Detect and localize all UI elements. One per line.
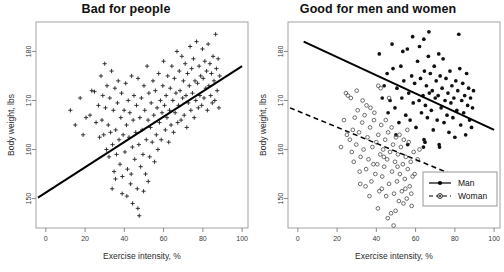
data-point <box>452 96 456 100</box>
data-point <box>362 148 366 152</box>
data-point <box>470 126 474 130</box>
data-point <box>398 172 402 176</box>
data-point <box>190 66 194 70</box>
data-point <box>119 116 123 120</box>
data-point <box>129 172 133 176</box>
data-point <box>195 81 199 85</box>
data-point <box>417 99 421 103</box>
data-point <box>451 116 455 120</box>
data-point <box>364 167 368 171</box>
data-point <box>380 175 384 179</box>
data-point <box>461 81 465 85</box>
data-point <box>386 216 390 220</box>
data-point <box>102 133 106 137</box>
data-point <box>369 106 373 110</box>
data-point <box>404 187 408 191</box>
data-point <box>422 145 426 149</box>
data-point <box>107 155 111 159</box>
x-tick-label: 0 <box>44 235 48 242</box>
data-point <box>413 81 417 85</box>
legend-label-woman: Woman <box>458 191 487 201</box>
data-point <box>73 123 77 127</box>
data-point <box>126 98 130 102</box>
data-point <box>393 160 397 164</box>
x-tick-label: 20 <box>333 235 341 242</box>
data-point <box>115 101 119 105</box>
data-point <box>146 118 150 122</box>
data-point <box>151 79 155 83</box>
data-point <box>395 180 399 184</box>
data-point <box>404 113 408 117</box>
y-tick-label: 160 <box>278 144 285 156</box>
legend[interactable]: ManWoman <box>423 172 497 206</box>
data-point <box>149 101 153 105</box>
data-point <box>384 194 388 198</box>
data-point <box>456 89 460 93</box>
data-point <box>143 108 147 112</box>
data-point <box>113 86 117 90</box>
data-point <box>450 84 454 88</box>
data-point <box>147 91 151 95</box>
data-point <box>352 160 356 164</box>
data-point <box>453 135 457 139</box>
data-point <box>430 89 434 93</box>
data-point <box>378 153 382 157</box>
data-point <box>194 40 198 44</box>
data-point <box>361 99 365 103</box>
data-point <box>181 79 185 83</box>
data-point <box>142 84 146 88</box>
x-tick-label: 80 <box>199 235 207 242</box>
x-tick-label: 0 <box>296 235 300 242</box>
data-point <box>110 187 114 191</box>
data-point <box>78 96 82 100</box>
data-point <box>211 54 215 58</box>
data-point <box>411 175 415 179</box>
data-point <box>442 121 446 125</box>
data-point <box>355 89 359 93</box>
data-point <box>422 37 426 41</box>
data-point <box>365 104 369 108</box>
data-point <box>448 69 452 73</box>
x-tick-label: 80 <box>451 235 459 242</box>
data-point <box>391 143 395 147</box>
data-point <box>393 106 397 110</box>
data-point <box>399 145 403 149</box>
data-point <box>137 143 141 147</box>
data-point <box>344 91 348 95</box>
data-point <box>191 57 195 61</box>
data-point <box>408 118 412 122</box>
data-point <box>465 72 469 76</box>
data-point <box>160 111 164 115</box>
data-point <box>433 96 437 100</box>
data-point <box>188 44 192 48</box>
data-point <box>110 143 114 147</box>
data-point <box>134 103 138 107</box>
data-point <box>471 106 475 110</box>
data-point <box>118 162 122 166</box>
data-point <box>98 135 102 139</box>
data-point <box>368 194 372 198</box>
data-point <box>398 133 402 137</box>
y-tick-label: 170 <box>26 95 33 107</box>
data-point <box>390 170 394 174</box>
data-point <box>394 209 398 213</box>
data-point <box>397 199 401 203</box>
data-point <box>462 111 466 115</box>
data-point <box>414 126 418 130</box>
data-point <box>381 148 385 152</box>
data-point <box>457 32 461 36</box>
data-point <box>350 150 354 154</box>
data-point <box>380 96 384 100</box>
data-point <box>396 153 400 157</box>
data-point <box>431 128 435 132</box>
data-point <box>208 62 212 66</box>
y-tick-label: 150 <box>278 193 285 205</box>
legend-marker-dot-woman <box>439 195 441 197</box>
data-point <box>469 96 473 100</box>
data-point <box>136 206 140 210</box>
data-point <box>213 98 217 102</box>
data-point <box>120 192 124 196</box>
x-axis-label: Exercise intensity, % <box>103 251 181 261</box>
x-tick-label: 40 <box>372 235 380 242</box>
data-point <box>339 145 343 149</box>
